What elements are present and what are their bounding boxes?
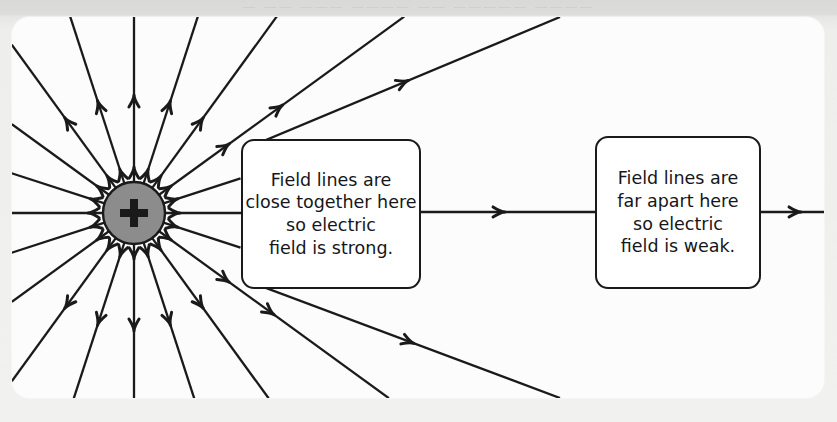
callout-weak-line-2: far apart here: [617, 190, 738, 213]
callout-strong-line-2: close together here: [246, 191, 417, 214]
callout-field-weak: Field lines are far apart here so electr…: [595, 136, 761, 289]
callout-weak-line-1: Field lines are: [618, 167, 739, 190]
charge-group: [103, 182, 165, 244]
field-line: [250, 282, 560, 398]
field-line: [12, 45, 116, 188]
charge-plus-vertical: [130, 199, 138, 227]
figure-root: — —— ——— ———— —— ————— ———— Field lines …: [0, 0, 837, 422]
field-line: [12, 238, 116, 381]
callout-field-strong: Field lines are close together here so e…: [241, 139, 421, 289]
callout-strong-line-4: field is strong.: [269, 237, 393, 260]
callout-weak-line-3: so electric: [633, 213, 723, 236]
callout-strong-line-1: Field lines are: [271, 169, 392, 192]
callout-weak-line-4: field is weak.: [621, 235, 735, 258]
callout-strong-line-3: so electric: [286, 214, 376, 237]
